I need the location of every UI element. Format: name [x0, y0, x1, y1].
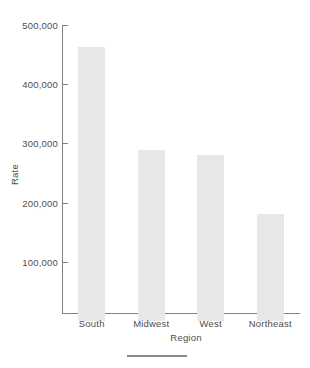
bar: [197, 155, 224, 321]
y-axis-title: Rate: [9, 164, 20, 185]
x-axis-tick-label: South: [79, 318, 105, 329]
y-axis-tick-label: 400,000: [22, 79, 58, 90]
x-axis-tick-label: Northeast: [249, 318, 292, 329]
y-axis-tick: [62, 262, 68, 263]
y-axis-tick-label: 100,000: [22, 256, 58, 267]
y-axis-tick: [62, 25, 68, 26]
x-axis-title: Region: [0, 332, 310, 343]
x-axis-tick-label: West: [200, 318, 222, 329]
footer-rule: [127, 355, 187, 357]
y-axis-tick-label: 300,000: [22, 138, 58, 149]
bar-chart-figure: 100,000200,000300,000400,000500,000 Sout…: [0, 0, 310, 368]
bar: [78, 47, 105, 321]
y-axis-tick-label: 500,000: [22, 20, 58, 31]
bar: [138, 150, 165, 321]
y-axis-tick-label: 200,000: [22, 197, 58, 208]
y-axis-tick: [62, 143, 68, 144]
y-axis-tick: [62, 84, 68, 85]
bar: [257, 214, 284, 321]
x-axis-tick-label: Midwest: [133, 318, 169, 329]
y-axis-tick: [62, 203, 68, 204]
y-axis-line: [62, 25, 63, 314]
